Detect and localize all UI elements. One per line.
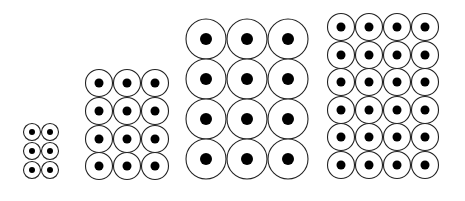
cell-nucleus-dot bbox=[95, 79, 104, 88]
cell-nucleus-dot bbox=[95, 135, 104, 144]
cell-circle-icon bbox=[412, 14, 439, 41]
cell-nucleus-dot bbox=[47, 167, 53, 173]
cell-circle-icon bbox=[86, 153, 113, 180]
cell-circle-icon bbox=[412, 42, 439, 69]
cell-circle-icon bbox=[268, 59, 308, 99]
cell-nucleus-dot bbox=[282, 113, 294, 125]
cell-nucleus-dot bbox=[282, 153, 294, 165]
cell-circle-icon bbox=[356, 69, 383, 96]
cell-circle-icon bbox=[328, 124, 355, 151]
cell-nucleus-dot bbox=[337, 23, 346, 32]
cell-circle-icon bbox=[142, 153, 169, 180]
cell-nucleus-dot bbox=[421, 133, 430, 142]
cell-nucleus-dot bbox=[337, 51, 346, 60]
cell-circle-icon bbox=[24, 143, 41, 160]
cell-nucleus-dot bbox=[337, 78, 346, 87]
cell-circle-icon bbox=[186, 99, 226, 139]
cell-nucleus-dot bbox=[393, 161, 402, 170]
cell-nucleus-dot bbox=[365, 161, 374, 170]
cell-circle-icon bbox=[227, 59, 267, 99]
cell-nucleus-dot bbox=[393, 23, 402, 32]
cell-circle-icon bbox=[114, 153, 141, 180]
cell-nucleus-dot bbox=[393, 78, 402, 87]
cell-circle-icon bbox=[384, 124, 411, 151]
cell-nucleus-dot bbox=[47, 129, 53, 135]
cell-circle-icon bbox=[384, 42, 411, 69]
cell-nucleus-dot bbox=[29, 129, 35, 135]
cell-circle-icon bbox=[356, 42, 383, 69]
cell-circle-icon bbox=[328, 69, 355, 96]
cell-circle-icon bbox=[328, 14, 355, 41]
cell-circle-icon bbox=[42, 162, 59, 179]
cell-groups-diagram bbox=[0, 0, 465, 201]
cell-nucleus-dot bbox=[95, 107, 104, 116]
cell-nucleus-dot bbox=[337, 161, 346, 170]
cell-circle-icon bbox=[227, 99, 267, 139]
cell-circle-icon bbox=[24, 124, 41, 141]
cell-nucleus-dot bbox=[123, 135, 132, 144]
cell-circle-icon bbox=[356, 97, 383, 124]
cell-nucleus-dot bbox=[365, 133, 374, 142]
cell-circle-icon bbox=[86, 126, 113, 153]
cell-circle-icon bbox=[384, 14, 411, 41]
cell-circle-icon bbox=[412, 97, 439, 124]
cell-nucleus-dot bbox=[200, 33, 212, 45]
cell-circle-icon bbox=[384, 152, 411, 179]
cell-circle-icon bbox=[328, 97, 355, 124]
cell-circle-icon bbox=[268, 99, 308, 139]
cell-circle-icon bbox=[356, 152, 383, 179]
cell-circle-icon bbox=[186, 19, 226, 59]
cell-nucleus-dot bbox=[421, 51, 430, 60]
cell-nucleus-dot bbox=[151, 79, 160, 88]
cell-circle-icon bbox=[42, 124, 59, 141]
cell-nucleus-dot bbox=[365, 106, 374, 115]
group-3 bbox=[186, 19, 308, 179]
cell-nucleus-dot bbox=[151, 135, 160, 144]
cell-nucleus-dot bbox=[29, 148, 35, 154]
cell-nucleus-dot bbox=[123, 107, 132, 116]
cell-circle-icon bbox=[114, 98, 141, 125]
cell-nucleus-dot bbox=[47, 148, 53, 154]
cell-circle-icon bbox=[86, 98, 113, 125]
cell-nucleus-dot bbox=[421, 23, 430, 32]
cell-circle-icon bbox=[227, 139, 267, 179]
cell-nucleus-dot bbox=[200, 113, 212, 125]
cell-circle-icon bbox=[384, 69, 411, 96]
cell-circle-icon bbox=[268, 139, 308, 179]
cell-nucleus-dot bbox=[365, 78, 374, 87]
cell-circle-icon bbox=[412, 69, 439, 96]
cell-circle-icon bbox=[356, 14, 383, 41]
cell-circle-icon bbox=[328, 152, 355, 179]
cell-nucleus-dot bbox=[421, 106, 430, 115]
cell-nucleus-dot bbox=[151, 162, 160, 171]
cell-nucleus-dot bbox=[123, 162, 132, 171]
cell-nucleus-dot bbox=[421, 161, 430, 170]
cell-circle-icon bbox=[114, 126, 141, 153]
cell-nucleus-dot bbox=[241, 153, 253, 165]
cell-nucleus-dot bbox=[241, 33, 253, 45]
group-1 bbox=[24, 124, 59, 179]
cell-circle-icon bbox=[412, 152, 439, 179]
cell-circle-icon bbox=[412, 124, 439, 151]
cell-nucleus-dot bbox=[241, 73, 253, 85]
cell-nucleus-dot bbox=[200, 73, 212, 85]
group-4 bbox=[328, 14, 439, 179]
cell-circle-icon bbox=[142, 70, 169, 97]
cell-nucleus-dot bbox=[365, 23, 374, 32]
cell-circle-icon bbox=[186, 59, 226, 99]
cell-nucleus-dot bbox=[337, 133, 346, 142]
cell-circle-icon bbox=[328, 42, 355, 69]
cell-nucleus-dot bbox=[393, 133, 402, 142]
cell-nucleus-dot bbox=[151, 107, 160, 116]
cell-circle-icon bbox=[86, 70, 113, 97]
cell-nucleus-dot bbox=[200, 153, 212, 165]
cell-circle-icon bbox=[356, 124, 383, 151]
cell-nucleus-dot bbox=[393, 106, 402, 115]
group-2 bbox=[86, 70, 169, 180]
cell-nucleus-dot bbox=[241, 113, 253, 125]
cell-nucleus-dot bbox=[29, 167, 35, 173]
cell-circle-icon bbox=[24, 162, 41, 179]
cell-nucleus-dot bbox=[95, 162, 104, 171]
cell-nucleus-dot bbox=[421, 78, 430, 87]
cell-circle-icon bbox=[268, 19, 308, 59]
